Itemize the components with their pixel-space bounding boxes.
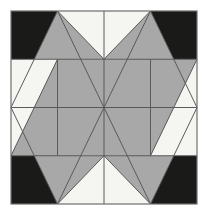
quilt-block-svg: Symmetric four-fold quilt block with gra… (0, 0, 208, 215)
quilt-figure: Symmetric four-fold quilt block with gra… (0, 0, 208, 215)
